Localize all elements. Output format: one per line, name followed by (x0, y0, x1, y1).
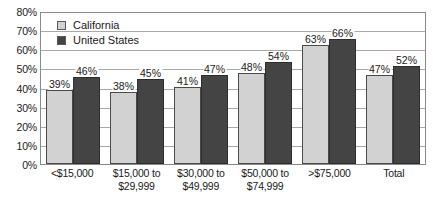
bar-california[interactable]: 47% (366, 75, 393, 164)
bar-united-states[interactable]: 46% (73, 77, 100, 164)
chart-legend: California United States (57, 18, 139, 48)
bar-value-label: 47% (203, 64, 226, 75)
y-axis-tick-label: 0% (22, 160, 37, 171)
bar-california[interactable]: 41% (174, 87, 201, 164)
y-axis-tick-label: 50% (17, 64, 37, 75)
bar-value-label: 63% (304, 34, 327, 45)
bar-group: 41%47% (169, 13, 233, 164)
x-axis-category-label: Total (362, 167, 426, 192)
y-axis-tick-label: 40% (17, 83, 37, 94)
y-axis-tick-label: 10% (17, 141, 37, 152)
bar-united-states[interactable]: 45% (137, 79, 164, 164)
bar-california[interactable]: 63% (302, 45, 329, 164)
legend-label-california: California (73, 20, 119, 31)
legend-swatch-icon-california (57, 21, 66, 30)
bar-value-label: 39% (48, 79, 71, 90)
bar-value-label: 66% (331, 28, 354, 39)
y-axis: 0%10%20%30%40%50%60%70%80% (0, 0, 40, 198)
bar-value-label: 47% (368, 64, 391, 75)
legend-label-united-states: United States (73, 35, 139, 46)
y-axis-tick-label: 80% (17, 7, 37, 18)
bar-value-label: 48% (240, 62, 263, 73)
y-axis-tick-label: 60% (17, 45, 37, 56)
legend-item-united-states: United States (57, 33, 139, 47)
x-axis-category-label: $30,000 to$49,999 (169, 167, 233, 192)
bar-value-label: 38% (112, 81, 135, 92)
bar-value-label: 54% (267, 51, 290, 62)
bar-united-states[interactable]: 54% (265, 62, 292, 164)
x-axis-category-label: >$75,000 (297, 167, 361, 192)
bar-california[interactable]: 38% (110, 92, 137, 164)
x-axis-category-label: <$15,000 (40, 167, 104, 192)
bar-united-states[interactable]: 66% (329, 39, 356, 164)
x-axis: <$15,000$15,000 to$29,999$30,000 to$49,9… (40, 167, 426, 192)
bar-california[interactable]: 48% (238, 73, 265, 164)
bar-california[interactable]: 39% (46, 90, 73, 164)
x-axis-category-label: $50,000 to$74,999 (233, 167, 297, 192)
bar-value-label: 45% (139, 68, 162, 79)
bar-value-label: 52% (395, 55, 418, 66)
bar-united-states[interactable]: 52% (393, 66, 420, 164)
bar-group: 48%54% (233, 13, 297, 164)
y-axis-tick-label: 70% (17, 26, 37, 37)
bar-group: 63%66% (297, 13, 361, 164)
bar-value-label: 41% (176, 76, 199, 87)
legend-swatch-icon-united-states (57, 36, 66, 45)
bar-value-label: 46% (75, 66, 98, 77)
bar-chart: 0%10%20%30%40%50%60%70%80% California Un… (0, 0, 433, 198)
legend-item-california: California (57, 18, 139, 32)
plot-area: California United States 39%46%38%45%41%… (40, 12, 426, 165)
y-axis-tick-label: 20% (17, 122, 37, 133)
x-axis-category-label: $15,000 to$29,999 (104, 167, 168, 192)
y-axis-tick-label: 30% (17, 102, 37, 113)
bar-united-states[interactable]: 47% (201, 75, 228, 164)
bar-group: 47%52% (361, 13, 425, 164)
